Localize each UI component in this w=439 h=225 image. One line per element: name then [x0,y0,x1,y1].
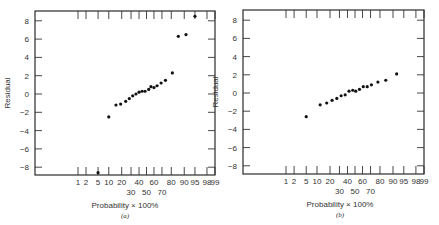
x-tick-label: 60 [358,177,367,186]
x-tick-label: 5 [304,177,309,186]
data-point [128,97,131,100]
data-point [370,83,373,86]
data-point [137,91,140,94]
y-axis-label: Residual [211,76,220,107]
y-tick-label: 4 [25,53,30,62]
data-point [114,103,117,106]
y-tick-label: 2 [233,71,238,80]
y-tick-label: −8 [228,162,238,171]
x-tick-label: 20 [117,178,126,187]
data-point [147,88,150,91]
plot-frame [243,10,424,174]
y-tick-label: −6 [20,145,30,154]
y-tick-label: −6 [228,144,238,153]
x-tick-label: 99 [420,177,429,186]
x-tick-label: 90 [389,177,398,186]
data-point [107,115,110,118]
panel-caption: (b) [336,211,345,219]
data-point [354,90,357,93]
x-tick-label: 10 [104,178,113,187]
y-tick-label: 6 [233,34,238,43]
data-point [325,101,328,104]
x-tick-label: 20 [326,177,335,186]
data-point [124,100,127,103]
x-tick-label: 40 [135,178,144,187]
x-axis-label: Probability × 100% [307,200,374,209]
chart-panel-a: 86420−2−4−6−8125102040608090959899305070… [3,11,220,220]
data-point [152,86,155,89]
x-tick-label: 5 [96,178,101,187]
y-tick-label: −2 [228,107,238,116]
x-tick-label: 95 [399,177,408,186]
y-tick-label: −4 [228,125,238,134]
data-point [358,88,361,91]
data-point [177,35,180,38]
y-tick-label: 8 [25,17,30,26]
x-tick-label: 80 [167,178,176,187]
data-point [134,92,137,95]
data-point [143,90,146,93]
x-tick-label: 80 [376,177,385,186]
chart-panel-b: 86420−2−4−6−8125102040608090959899305070… [211,10,429,219]
y-tick-label: −2 [20,108,30,117]
y-tick-label: −8 [20,163,30,172]
x-tick-label: 30 [335,187,344,196]
data-point [119,102,122,105]
x-axis-label: Probability × 100% [92,201,159,210]
y-tick-label: −4 [20,127,30,136]
y-tick-label: 6 [25,35,30,44]
x-tick-label: 1 [76,178,81,187]
x-tick-label: 70 [366,187,375,196]
data-point [351,89,354,92]
data-point [366,85,369,88]
plot-frame [35,11,215,175]
y-tick-label: 4 [233,53,238,62]
data-point [335,97,338,100]
data-point [149,85,152,88]
x-tick-label: 99 [211,178,220,187]
x-tick-label: 2 [84,178,89,187]
x-tick-label: 2 [292,177,297,186]
x-tick-label: 30 [127,188,136,197]
data-point [340,94,343,97]
data-point [319,103,322,106]
data-point [171,71,174,74]
data-point [384,79,387,82]
x-tick-label: 60 [150,178,159,187]
x-tick-label: 1 [284,177,289,186]
y-tick-label: 2 [25,72,30,81]
data-point [131,94,134,97]
data-point [347,90,350,93]
data-point [376,80,379,83]
x-tick-label: 95 [190,178,199,187]
x-tick-label: 90 [180,178,189,187]
data-point [140,90,143,93]
data-point [193,15,196,18]
y-axis-label: Residual [3,77,12,108]
normal-probability-plots: 86420−2−4−6−8125102040608090959899305070… [0,0,439,225]
data-point [164,79,167,82]
data-point [160,81,163,84]
data-point [344,93,347,96]
data-point [395,72,398,75]
data-point [362,85,365,88]
x-tick-label: 50 [142,188,151,197]
y-tick-label: 0 [233,89,238,98]
data-point [155,84,158,87]
data-point [330,99,333,102]
data-point [305,115,308,118]
x-tick-label: 40 [343,177,352,186]
y-tick-label: 8 [233,16,238,25]
data-point [184,33,187,36]
panel-caption: (a) [121,212,130,220]
x-tick-label: 70 [157,188,166,197]
x-tick-label: 10 [313,177,322,186]
x-tick-label: 50 [351,187,360,196]
data-point [96,171,99,174]
y-tick-label: 0 [25,90,30,99]
